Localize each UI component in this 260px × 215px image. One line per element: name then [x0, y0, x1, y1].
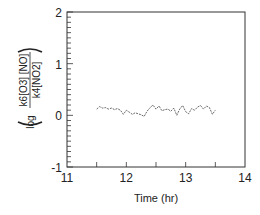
y-title-denominator: k4[NO2]	[31, 61, 42, 98]
x-axis-ticks	[97, 162, 216, 167]
plot-frame	[67, 12, 245, 167]
y-tick-label: 0	[55, 109, 62, 123]
y-title-numerator: k6[O3] [NO]	[18, 53, 29, 106]
x-axis-title: Time (hr)	[134, 192, 178, 204]
y-tick-label: 1	[55, 58, 62, 72]
chart-canvas: 2 1 0 -1 11 12 13 14 Time (hr) log k6[O3…	[0, 0, 260, 215]
x-tick-label: 11	[61, 171, 74, 185]
y-tick-label: 2	[55, 6, 62, 20]
y-title-log: log	[25, 115, 36, 128]
x-tick-label: 12	[120, 171, 134, 185]
x-tick-labels: 11 12 13 14	[61, 171, 252, 185]
x-tick-label: 13	[179, 171, 193, 185]
y-tick-labels: 2 1 0 -1	[51, 6, 62, 175]
data-series-line	[97, 105, 216, 116]
paren-top	[18, 49, 42, 52]
y-axis-ticks	[67, 12, 73, 167]
x-tick-label: 14	[238, 171, 252, 185]
y-axis-title: log k6[O3] [NO] k4[NO2]	[18, 52, 42, 129]
